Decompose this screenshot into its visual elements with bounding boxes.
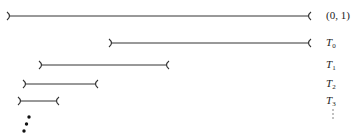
interval-label-T0: T0 xyxy=(326,36,336,50)
interval-T1 xyxy=(39,61,169,69)
interval-label-unit-interval: (0, 1) xyxy=(326,9,350,21)
right-open-bracket-icon xyxy=(167,61,170,69)
left-open-bracket-icon xyxy=(23,80,26,88)
interval-label-T1: T1 xyxy=(326,58,336,72)
interval-unit-interval xyxy=(7,12,311,20)
right-open-bracket-icon xyxy=(309,39,312,47)
nested-intervals-diagram xyxy=(0,0,355,136)
left-open-bracket-icon xyxy=(7,12,10,20)
interval-T0 xyxy=(109,39,311,47)
vertical-ellipsis xyxy=(332,109,333,118)
left-open-bracket-icon xyxy=(18,97,21,105)
interval-T3 xyxy=(18,97,59,105)
right-open-bracket-icon xyxy=(96,80,99,88)
interval-label-T2: T2 xyxy=(326,77,336,91)
left-open-bracket-icon xyxy=(39,61,42,69)
interval-label-T3: T3 xyxy=(326,94,336,108)
interval-T2 xyxy=(23,80,98,88)
right-open-bracket-icon xyxy=(57,97,60,105)
left-open-bracket-icon xyxy=(109,39,112,47)
right-open-bracket-icon xyxy=(309,12,312,20)
continuation-dots xyxy=(22,115,30,132)
